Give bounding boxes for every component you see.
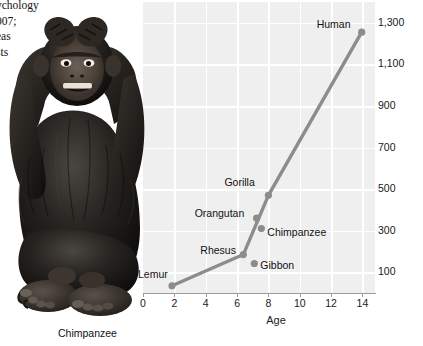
x-tick-label: 8 bbox=[255, 297, 281, 309]
y-tick-label: 700 bbox=[378, 141, 420, 153]
primate-data-points bbox=[168, 29, 365, 290]
point-label-lemur: Lemur bbox=[138, 268, 168, 280]
photo-caption: Chimpanzee bbox=[58, 327, 178, 339]
x-axis-title: Age bbox=[246, 314, 306, 326]
y-tick-label: 300 bbox=[378, 224, 420, 236]
point-label-rhesus: Rhesus bbox=[200, 244, 236, 256]
data-point-chimpanzee bbox=[258, 225, 265, 232]
y-tick-label: 500 bbox=[378, 182, 420, 194]
y-tick-label: 1,300 bbox=[378, 16, 420, 28]
point-label-orangutan: Orangutan bbox=[195, 207, 245, 219]
body-text-line-4: sts bbox=[0, 45, 56, 61]
point-label-gorilla: Gorilla bbox=[224, 176, 254, 188]
x-tick-label: 6 bbox=[224, 297, 250, 309]
brain-weight-vs-age-chart bbox=[143, 2, 375, 293]
chart-plot-svg bbox=[143, 2, 375, 293]
data-point-gorilla bbox=[265, 192, 272, 199]
x-tick-label: 4 bbox=[193, 297, 219, 309]
x-tick-label: 2 bbox=[161, 297, 187, 309]
x-tick-label: 12 bbox=[318, 297, 344, 309]
y-tick-label: 900 bbox=[378, 99, 420, 111]
data-point-rhesus bbox=[240, 251, 247, 258]
x-tick-label: 0 bbox=[130, 297, 156, 309]
y-tick-label: 100 bbox=[378, 265, 420, 277]
point-label-gibbon: Gibbon bbox=[260, 259, 294, 271]
body-text-line-3: eas bbox=[0, 29, 56, 45]
data-point-orangutan bbox=[253, 215, 260, 222]
page-body-text: ychology 007; eas sts bbox=[0, 0, 56, 60]
y-tick-label: 1,100 bbox=[378, 57, 420, 69]
x-tick-label: 14 bbox=[349, 297, 375, 309]
x-axis-line bbox=[143, 293, 376, 294]
data-point-human bbox=[358, 29, 365, 36]
data-point-lemur bbox=[168, 282, 175, 289]
body-text-line-1: ychology bbox=[0, 0, 56, 14]
data-point-gibbon bbox=[251, 260, 258, 267]
point-label-human: Human bbox=[317, 18, 351, 30]
body-text-line-2: 007; bbox=[0, 14, 56, 30]
point-label-chimpanzee: Chimpanzee bbox=[267, 226, 326, 238]
x-tick-label: 10 bbox=[287, 297, 313, 309]
